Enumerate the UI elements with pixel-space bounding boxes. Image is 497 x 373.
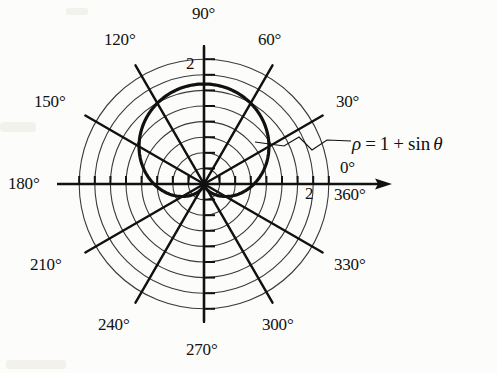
sin-symbol: sin	[408, 133, 430, 154]
theta-symbol: θ	[433, 133, 442, 154]
angle-label-330: 330°	[334, 255, 366, 275]
angle-label-180: 180°	[8, 174, 40, 194]
angle-label-30: 30°	[336, 92, 359, 112]
angle-label-270: 270°	[186, 340, 218, 360]
angle-label-90: 90°	[192, 4, 215, 24]
radial-label-0deg: 2	[305, 184, 314, 204]
equals-symbol: =	[365, 133, 376, 154]
one-symbol: 1	[380, 133, 390, 154]
radial-label-90deg: 2	[186, 54, 195, 74]
rho-symbol: ρ	[352, 133, 361, 154]
angle-label-300: 300°	[262, 315, 294, 335]
angle-label-120: 120°	[104, 30, 136, 50]
angle-label-60: 60°	[258, 30, 281, 50]
figure-canvas: 90°120°60°150°30°180°0°360°210°330°240°3…	[0, 0, 497, 373]
angle-label-150: 150°	[34, 92, 66, 112]
polar-plot-graphic	[0, 0, 497, 373]
angle-label-0: 0°	[340, 158, 355, 178]
angle-label-360: 360°	[334, 185, 366, 205]
angle-label-240: 240°	[98, 315, 130, 335]
equation-annotation: ρ=1+sinθ	[352, 133, 443, 155]
angle-label-210: 210°	[30, 255, 62, 275]
plus-symbol: +	[393, 133, 404, 154]
